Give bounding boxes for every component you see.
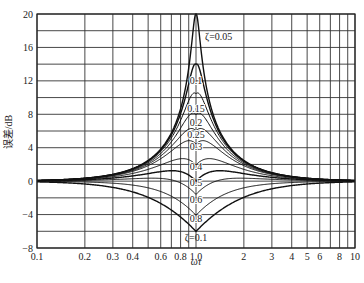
error-curve-chart: 0.10.20.30.40.60.81.023456810 201612840−… — [0, 0, 364, 283]
y-tick-label: 20 — [23, 9, 33, 20]
x-tick-label: 8 — [337, 251, 342, 262]
y-tick-label: 12 — [23, 75, 33, 86]
curve-label: ζ=0.1 — [185, 232, 207, 244]
curve-label: 0.2 — [190, 117, 203, 128]
curve-label: 0.15 — [187, 103, 205, 114]
x-tick-label: 0.3 — [107, 251, 120, 262]
x-tick-label: 0.6 — [154, 251, 167, 262]
y-tick-label: −4 — [22, 209, 33, 220]
y-tick-label: 0 — [28, 176, 33, 187]
curve-label: 0.1 — [190, 75, 203, 86]
x-tick-label: 0.8 — [174, 251, 187, 262]
curve-labels: ζ=0.050.10.150.20.250.30.40.50.60.8ζ=0.1 — [185, 31, 232, 244]
curve-label: 0.5 — [190, 177, 203, 188]
curve-label: 0.3 — [190, 141, 203, 152]
x-tick-label: 0.2 — [79, 251, 92, 262]
x-tick-label: 2 — [241, 251, 246, 262]
y-tick-label: 8 — [28, 109, 33, 120]
y-axis-label: 误差/dB — [2, 114, 14, 149]
y-tick-label: 4 — [28, 142, 33, 153]
x-tick-label: 4 — [289, 251, 294, 262]
curve-label: 0.8 — [190, 213, 203, 224]
x-tick-label: 5 — [305, 251, 310, 262]
y-tick-labels: 201612840−4−8 — [22, 9, 33, 254]
curve-label: ζ=0.05 — [205, 31, 232, 43]
y-tick-label: 16 — [23, 42, 33, 53]
curve-label: 0.6 — [190, 194, 203, 205]
x-tick-label: 6 — [317, 251, 322, 262]
x-tick-label: 10 — [350, 251, 360, 262]
x-tick-label: 3 — [269, 251, 274, 262]
y-tick-label: −8 — [22, 243, 33, 254]
curve-label: 0.4 — [190, 161, 203, 172]
x-axis-label: ωτ — [191, 256, 202, 267]
x-tick-label: 0.4 — [126, 251, 139, 262]
curve-label: 0.25 — [187, 129, 205, 140]
